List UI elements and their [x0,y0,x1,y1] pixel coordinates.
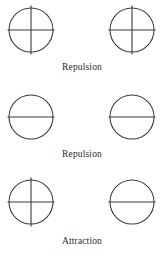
diagram-row-1-shapes [0,4,164,56]
diagram-row-2 [0,91,164,143]
diagram-row-2-shapes [0,91,164,143]
row-1-right-shape [106,4,158,56]
row-2-caption: Repulsion [0,149,164,160]
diagram-row-3 [0,176,164,228]
diagram-row-1 [0,4,164,56]
diagram-row-3-shapes [0,176,164,228]
row-3-caption: Attraction [0,236,164,247]
row-2-left-shape [5,91,57,143]
row-1-left-shape [5,4,57,56]
row-3-right-shape [106,176,158,228]
row-2-right-shape [106,91,158,143]
figure-canvas: Repulsion Repulsion [0,0,164,263]
row-3-left-shape [5,176,57,228]
row-1-caption: Repulsion [0,62,164,73]
